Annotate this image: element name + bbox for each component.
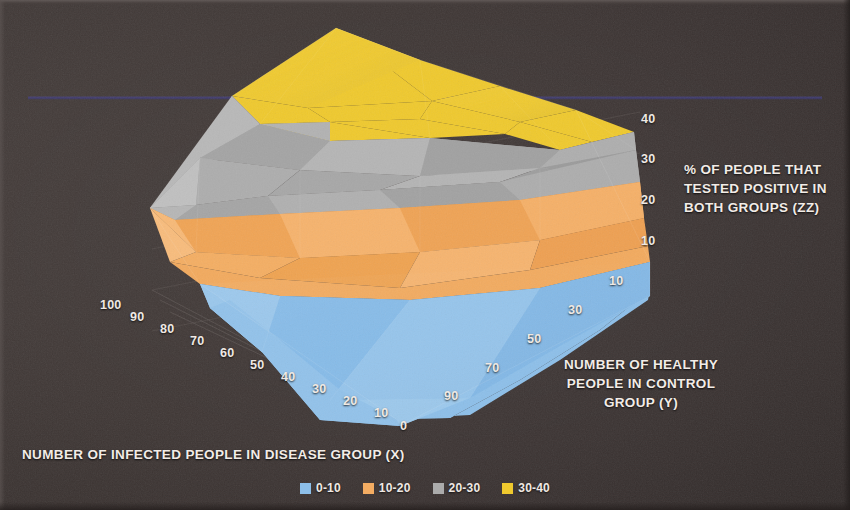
slide-edge-bottom	[0, 502, 850, 510]
z-axis-title: % OF PEOPLE THAT TESTED POSITIVE IN BOTH…	[684, 160, 827, 217]
legend-label-30-40: 30-40	[518, 481, 550, 495]
chart-screenshot: 100 90 80 70 60 50 40 30 20 10 0 90 70 5…	[0, 0, 850, 510]
legend-label-20-30: 20-30	[449, 481, 481, 495]
legend-swatch-icon-0-10	[300, 483, 311, 494]
legend-item-0-10[interactable]: 0-10	[300, 481, 341, 495]
z-axis-title-line2: TESTED POSITIVE IN	[684, 179, 827, 198]
chart-legend: 0-10 10-20 20-30 30-40	[0, 481, 850, 495]
legend-swatch-icon-20-30	[433, 483, 444, 494]
legend-label-10-20: 10-20	[379, 481, 411, 495]
legend-item-30-40[interactable]: 30-40	[502, 481, 550, 495]
y-axis-title: NUMBER OF HEALTHY PEOPLE IN CONTROL GROU…	[546, 355, 736, 412]
legend-swatch-icon-10-20	[363, 483, 374, 494]
legend-swatch-icon-30-40	[502, 483, 513, 494]
surface-plot	[0, 0, 850, 510]
slide-edge-right	[843, 0, 850, 510]
y-axis-title-line3: GROUP (Y)	[546, 393, 736, 412]
legend-item-20-30[interactable]: 20-30	[433, 481, 481, 495]
legend-label-0-10: 0-10	[316, 481, 341, 495]
x-axis-title: NUMBER OF INFECTED PEOPLE IN DISEASE GRO…	[22, 445, 405, 464]
y-axis-title-line1: NUMBER OF HEALTHY	[546, 355, 736, 374]
y-axis-title-line2: PEOPLE IN CONTROL	[546, 374, 736, 393]
slide-edge-top	[0, 0, 850, 5]
z-axis-title-line1: % OF PEOPLE THAT	[684, 160, 827, 179]
z-axis-title-line3: BOTH GROUPS (ZZ)	[684, 198, 827, 217]
legend-item-10-20[interactable]: 10-20	[363, 481, 411, 495]
slide-edge-left	[0, 0, 5, 510]
